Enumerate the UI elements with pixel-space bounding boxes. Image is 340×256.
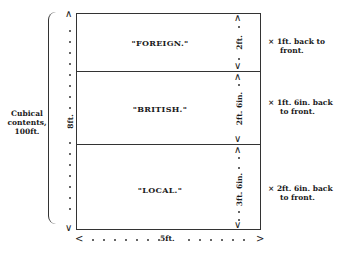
compartment-foreign-label: "FOREIGN."	[100, 38, 220, 48]
british-down-arrow-icon: ∨	[234, 134, 241, 144]
british-depth-note-line1: × 1ft. 6in. back	[268, 98, 333, 107]
width-left-arrow-icon: <	[75, 234, 83, 244]
cubical-contents-line1: Cubical	[2, 109, 52, 118]
british-depth-note-line2: to front.	[268, 107, 333, 116]
cubical-contents-label: Cubical contents, 100ft.	[2, 109, 52, 136]
local-up-arrow-icon: ∧	[234, 145, 241, 155]
foreign-depth-note-line1: × 1ft. back to	[268, 37, 325, 46]
local-down-arrow-icon: ∨	[234, 220, 241, 230]
british-up-arrow-icon: ∧	[234, 72, 241, 82]
compartment-local-label: "LOCAL."	[100, 185, 220, 195]
total-height-up-arrow-icon: ∧	[65, 9, 72, 19]
british-depth-note: × 1ft. 6in. back to front.	[268, 98, 333, 116]
width-right-arrow-icon: >	[256, 234, 264, 244]
foreign-down-arrow-icon: ∨	[234, 61, 241, 71]
local-height-label: 3ft. 6in.	[235, 169, 244, 211]
local-depth-note-line1: × 2ft. 6in. back	[268, 184, 333, 193]
foreign-height-label: 2ft.	[235, 28, 244, 58]
foreign-depth-note: × 1ft. back to front.	[268, 37, 325, 55]
local-depth-note: × 2ft. 6in. back to front.	[268, 184, 333, 202]
compartment-british-label: "BRITISH."	[100, 104, 220, 114]
local-depth-note-line2: to front.	[268, 193, 333, 202]
cubical-contents-line2: contents,	[2, 118, 52, 127]
cubical-contents-line3: 100ft.	[2, 127, 52, 136]
total-height-label: 8ft.	[66, 108, 75, 136]
total-height-down-arrow-icon: ∨	[65, 223, 72, 233]
width-label: 5ft.	[160, 234, 175, 243]
foreign-depth-note-line2: front.	[268, 46, 325, 55]
british-height-label: 2ft. 6in.	[235, 88, 244, 130]
foreign-up-arrow-icon: ∧	[234, 13, 241, 23]
